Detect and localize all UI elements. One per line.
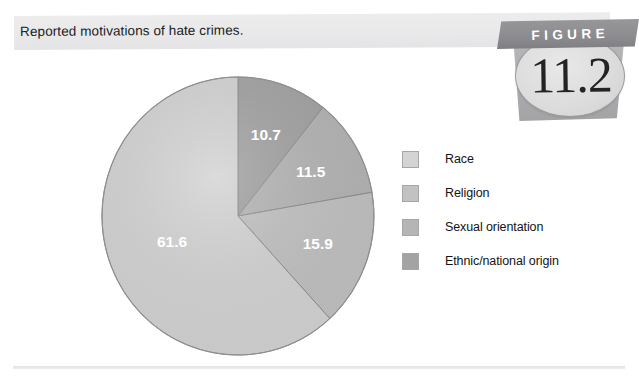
figure-container: Reported motivations of hate crimes. 11.… <box>0 0 639 379</box>
chart-legend: Race Religion Sexual orientation Ethnic/… <box>402 142 617 278</box>
legend-label-race: Race <box>445 152 474 166</box>
legend-item-religion[interactable]: Religion <box>402 176 617 210</box>
figure-badge: 11.2 FIGURE <box>497 5 639 127</box>
legend-swatch-race <box>402 151 419 168</box>
pie-outline <box>102 77 374 355</box>
pie-slice-value: 10.7 <box>251 126 281 143</box>
page-title: Reported motivations of hate crimes. <box>20 23 244 39</box>
legend-label-ethnic-national-origin: Ethnic/national origin <box>445 254 559 268</box>
legend-label-sexual-orientation: Sexual orientation <box>445 220 543 234</box>
pie-chart: 10.711.515.961.6 <box>99 76 377 358</box>
pie-slice-value: 15.9 <box>303 235 334 252</box>
bottom-divider <box>13 366 625 369</box>
legend-swatch-sexual-orientation <box>402 219 419 236</box>
badge-banner-label: FIGURE <box>497 17 639 51</box>
pie-slice-value: 11.5 <box>296 163 326 180</box>
legend-swatch-ethnic-national-origin <box>402 253 419 270</box>
pie-chart-svg: 10.711.515.961.6 <box>99 76 377 358</box>
pie-slice-value: 61.6 <box>157 233 188 250</box>
legend-item-race[interactable]: Race <box>402 142 617 176</box>
legend-item-sexual-orientation[interactable]: Sexual orientation <box>402 210 617 244</box>
legend-label-religion: Religion <box>445 186 489 200</box>
legend-item-ethnic-national-origin[interactable]: Ethnic/national origin <box>402 244 617 278</box>
legend-swatch-religion <box>402 185 419 202</box>
